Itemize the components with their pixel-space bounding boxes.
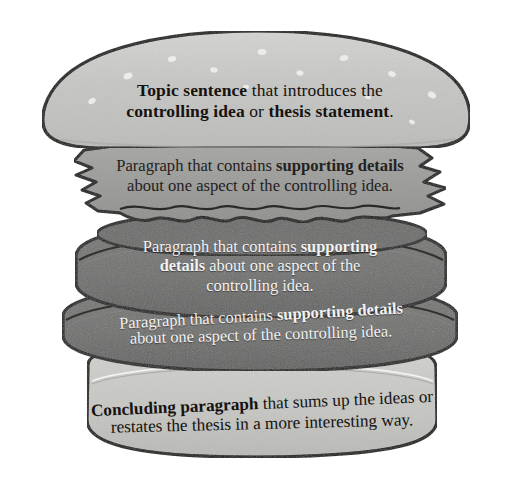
burger-illustration	[0, 0, 520, 479]
lettuce-shape	[74, 142, 446, 222]
hamburger-essay-diagram: Topic sentence that introduces thecontro…	[0, 0, 520, 479]
top-bun-shape	[43, 31, 470, 148]
